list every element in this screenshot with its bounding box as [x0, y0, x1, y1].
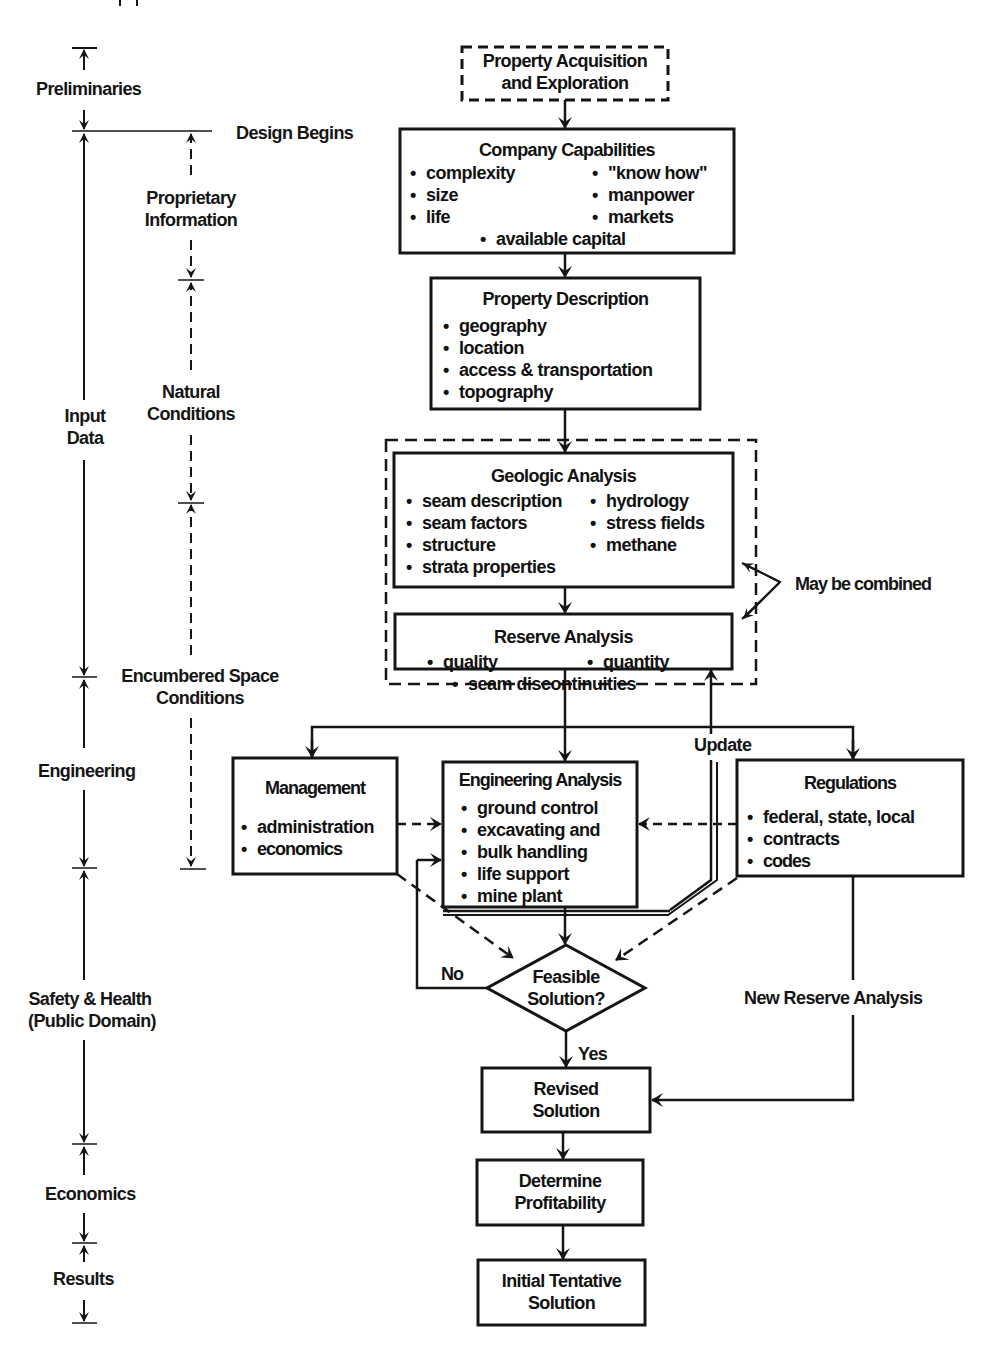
determine-profitability-line1: Determine: [477, 1170, 643, 1192]
engineering-analysis-title: Engineering Analysis: [443, 769, 637, 791]
node-revised-solution: Revised Solution: [482, 1068, 650, 1132]
may-be-combined-label: May be combined: [795, 573, 931, 595]
cap-item-complexity: complexity: [410, 162, 515, 184]
desc-item-topography: topography: [443, 381, 553, 403]
reserve-analysis-title: Reserve Analysis: [395, 626, 732, 648]
subphase-proprietary-line1: Proprietary: [136, 187, 246, 209]
cap-item-life: life: [410, 206, 450, 228]
phase-input-data-line1: Input: [60, 405, 110, 427]
reserve-item-quantity: quantity: [587, 651, 669, 673]
initial-tentative-solution-line2: Solution: [478, 1292, 645, 1314]
cap-item-know-how: "know how": [592, 162, 707, 184]
mgmt-item-economics: economics: [241, 838, 342, 860]
phase-input-data-line2: Data: [60, 427, 110, 449]
desc-item-location: location: [443, 337, 524, 359]
reg-item-federal: federal, state, local: [747, 806, 915, 828]
eng-item-ground-control: ground control: [461, 797, 598, 819]
eng-item-excavating: excavating and: [461, 819, 600, 841]
node-management: Management administration economics: [233, 758, 397, 874]
phase-safety-health: Safety & Health (Public Domain): [28, 988, 152, 1032]
node-property-acquisition: Property Acquisition and Exploration: [462, 47, 668, 100]
revised-solution-line1: Revised: [482, 1078, 650, 1100]
subphase-natural: Natural Conditions: [146, 381, 236, 425]
reg-item-codes: codes: [747, 850, 810, 872]
phase-input-data: Input Data: [60, 405, 110, 449]
cap-item-markets: markets: [592, 206, 674, 228]
geo-item-methane: methane: [590, 534, 677, 556]
geologic-analysis-title: Geologic Analysis: [394, 465, 733, 487]
geo-item-strata-properties: strata properties: [406, 556, 556, 578]
regulations-title: Regulations: [737, 772, 963, 794]
decision-line2: Solution?: [506, 988, 626, 1010]
eng-item-life-support: life support: [461, 863, 569, 885]
node-determine-profitability: Determine Profitability: [477, 1160, 643, 1225]
determine-profitability-line2: Profitability: [477, 1192, 643, 1214]
cap-item-manpower: manpower: [592, 184, 694, 206]
phase-safety-health-line1: Safety & Health: [28, 988, 152, 1010]
property-acquisition-line1: Property Acquisition: [462, 50, 668, 72]
eng-item-mine-plant: mine plant: [461, 885, 562, 907]
subphase-natural-line1: Natural: [146, 381, 236, 403]
geo-item-seam-description: seam description: [406, 490, 562, 512]
geo-item-structure: structure: [406, 534, 496, 556]
property-description-title: Property Description: [431, 288, 700, 310]
property-acquisition-line2: and Exploration: [462, 72, 668, 94]
phase-safety-health-line2: (Public Domain): [28, 1010, 152, 1032]
node-initial-tentative-solution: Initial Tentative Solution: [478, 1260, 645, 1325]
mgmt-item-administration: administration: [241, 816, 374, 838]
mine-design-flowchart: Preliminaries Design Begins Input Data E…: [0, 0, 989, 1353]
subphase-encumbered-line2: Conditions: [120, 687, 280, 709]
subphase-proprietary-line2: Information: [136, 209, 246, 231]
phase-results: Results: [53, 1268, 114, 1290]
subphase-encumbered: Encumbered Space Conditions: [120, 665, 280, 709]
reserve-item-seam-discontinuities: seam discontinuities: [452, 673, 636, 695]
desc-item-access: access & transportation: [443, 359, 653, 381]
eng-item-bulk-handling-text: bulk handling: [477, 842, 588, 862]
reserve-item-quality: quality: [427, 651, 498, 673]
subphase-natural-line2: Conditions: [146, 403, 236, 425]
node-regulations: Regulations federal, state, local contra…: [737, 760, 963, 876]
decision-yes-label: Yes: [578, 1043, 607, 1065]
node-property-description: Property Description geography location …: [431, 278, 700, 409]
node-reserve-analysis: Reserve Analysis quality quantity seam d…: [395, 614, 732, 669]
eng-item-bulk-handling: bulk handling: [461, 841, 588, 863]
new-reserve-analysis-label: New Reserve Analysis: [744, 987, 922, 1009]
geo-item-hydrology: hydrology: [590, 490, 689, 512]
design-begins-label: Design Begins: [236, 122, 353, 144]
geo-item-seam-factors: seam factors: [406, 512, 527, 534]
node-geologic-analysis: Geologic Analysis seam description seam …: [394, 453, 733, 587]
phase-preliminaries: Preliminaries: [36, 78, 141, 100]
update-label: Update: [692, 734, 753, 756]
decision-no-label: No: [441, 963, 463, 985]
subphase-encumbered-line1: Encumbered Space: [120, 665, 280, 687]
geo-item-stress-fields: stress fields: [590, 512, 705, 534]
reg-item-contracts: contracts: [747, 828, 840, 850]
management-title: Management: [233, 777, 397, 799]
desc-item-geography: geography: [443, 315, 547, 337]
cap-item-available-capital: available capital: [480, 228, 626, 250]
revised-solution-line2: Solution: [482, 1100, 650, 1122]
cap-item-size: size: [410, 184, 458, 206]
decision-line1: Feasible: [506, 966, 626, 988]
node-engineering-analysis: Engineering Analysis ground control exca…: [443, 762, 637, 907]
phase-economics: Economics: [45, 1183, 136, 1205]
initial-tentative-solution-line1: Initial Tentative: [478, 1270, 645, 1292]
subphase-proprietary: Proprietary Information: [136, 187, 246, 231]
node-company-capabilities: Company Capabilities complexity size lif…: [400, 129, 734, 253]
company-capabilities-title: Company Capabilities: [400, 139, 734, 161]
phase-engineering: Engineering: [38, 760, 135, 782]
